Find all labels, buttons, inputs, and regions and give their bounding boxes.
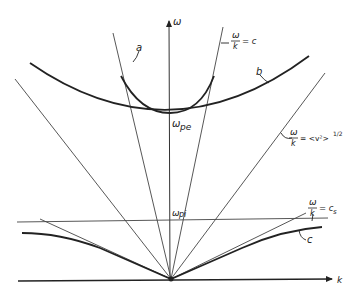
- curve-c-label: c: [307, 234, 313, 245]
- thermal-line-label: ω k = <v²> 1/2: [289, 127, 343, 148]
- svg-text:pi: pi: [178, 210, 187, 219]
- svg-text:1/2: 1/2: [333, 130, 343, 137]
- omega-axis-label: ω: [173, 16, 181, 27]
- svg-text:= c: = c: [242, 36, 257, 46]
- k-axis-label: k: [337, 275, 343, 285]
- light-line-label: ω k = c: [231, 30, 257, 51]
- leader-c: [299, 230, 306, 240]
- sound-line-right: [171, 213, 306, 279]
- omega-pi-line: [17, 218, 328, 222]
- curve-b-label: b: [256, 66, 262, 77]
- dispersion-diagram: ω k a b c ω pe ω pi ω k = c ω k = <v²> 1…: [0, 0, 355, 292]
- svg-text:ω: ω: [309, 197, 317, 207]
- diagram-canvas: ω k a b c ω pe ω pi ω k = c ω k = <v²> 1…: [0, 0, 355, 292]
- curve-c: [22, 227, 322, 279]
- omega-pe-label: ω pe: [172, 118, 192, 132]
- svg-text:= c: = c: [319, 203, 334, 213]
- thermal-line-right: [171, 73, 325, 279]
- svg-text:= <v²>: = <v²>: [300, 134, 329, 143]
- svg-text:pe: pe: [179, 122, 192, 132]
- origin-point: [169, 277, 174, 282]
- svg-text:k: k: [291, 139, 296, 148]
- svg-text:s: s: [333, 208, 337, 216]
- svg-text:k: k: [233, 42, 238, 51]
- svg-text:k: k: [310, 209, 315, 218]
- light-line-right: [171, 27, 223, 279]
- omega-axis: [169, 21, 170, 279]
- omega-pi-label: ω pi: [172, 208, 187, 219]
- svg-text:ω: ω: [232, 30, 240, 40]
- k-axis: [18, 279, 332, 281]
- svg-text:ω: ω: [290, 127, 298, 137]
- curve-a-label: a: [136, 42, 142, 53]
- sound-line-label: ω k = c s: [308, 197, 337, 218]
